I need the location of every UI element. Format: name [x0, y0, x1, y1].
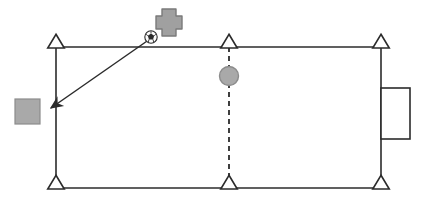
direction-arrow: [51, 39, 150, 108]
support-top-middle: [221, 34, 238, 48]
support-triangles-group: [48, 34, 390, 189]
diagram-svg: [0, 0, 424, 206]
right-side-rectangle: [381, 88, 410, 139]
support-bottom-right: [373, 175, 390, 189]
gray-circle-node: [220, 67, 239, 86]
frame-group: [56, 47, 381, 188]
gray-cross-marker: [156, 9, 182, 36]
support-top-left: [48, 34, 65, 48]
diagram-canvas: [0, 0, 424, 206]
support-bottom-left: [48, 175, 65, 189]
gray-square-node: [15, 99, 40, 124]
support-bottom-middle: [221, 175, 238, 189]
support-top-right: [373, 34, 390, 48]
soccer-ball-icon: [145, 31, 157, 43]
